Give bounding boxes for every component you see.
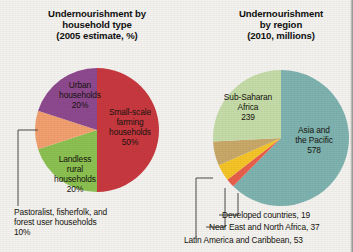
slice-label: 50%: [122, 137, 139, 147]
slice-label: Urban: [69, 80, 92, 90]
slice-label: farming: [116, 117, 144, 127]
slice-label: 239: [241, 112, 255, 122]
slice-label: 20%: [72, 100, 89, 110]
slice-label: Landless: [59, 154, 92, 164]
callout-label: Pastoralist, fisherfolk, and: [14, 207, 108, 217]
chart-title-line: (2010, millions): [247, 30, 315, 41]
chart-title-line: household type: [62, 19, 132, 30]
slice-label: Small-scale: [109, 107, 152, 117]
slice-label: rural: [67, 164, 83, 174]
chart-title-line: by region: [260, 19, 303, 30]
slice-label: 578: [307, 145, 321, 155]
callout-label: 10%: [14, 227, 31, 237]
slice-label: Asia and: [298, 125, 330, 135]
slice-label: households: [54, 174, 96, 184]
pie-chart-region: Undernourishmentby region(2010, millions…: [184, 8, 349, 245]
callout-leader-line: [18, 130, 38, 206]
chart-title-line: Undernourishment by: [48, 8, 147, 19]
pie-chart-household-type: Undernourishment byhousehold type(2005 e…: [14, 8, 159, 237]
callout-label: Latin America and Caribbean, 53: [184, 235, 303, 245]
chart-title-line: (2005 estimate, %): [56, 30, 137, 41]
undernourishment-figure: Undernourishment byhousehold type(2005 e…: [0, 0, 353, 252]
slice-label: Sub-Saharan: [224, 92, 273, 102]
slice-label: households: [59, 90, 101, 100]
callout-label: forest user households: [14, 217, 97, 227]
callout-label: Near East and North Africa, 37: [209, 222, 320, 232]
slice-label: the Pacific: [295, 135, 333, 145]
slice-label: Africa: [238, 102, 259, 112]
slice-label: 20%: [67, 184, 84, 194]
callout-label: Developed countries, 19: [222, 210, 310, 220]
slice-label: households: [109, 127, 151, 137]
chart-title-line: Undernourishment: [239, 8, 324, 19]
